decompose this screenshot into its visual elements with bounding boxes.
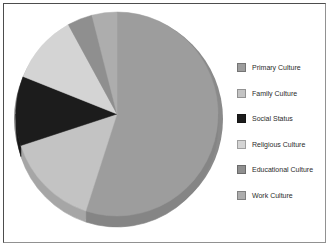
legend-label: Religious Culture	[252, 140, 305, 149]
legend-swatch-religious-culture	[237, 140, 246, 149]
legend-item-religious-culture: Religious Culture	[237, 140, 313, 149]
legend-item-work-culture: Work Culture	[237, 191, 313, 200]
legend-item-primary-culture: Primary Culture	[237, 63, 313, 72]
legend-item-social-status: Social Status	[237, 114, 313, 123]
legend-label: Social Status	[252, 114, 293, 123]
legend-label: Work Culture	[252, 191, 293, 200]
legend-item-family-culture: Family Culture	[237, 89, 313, 98]
chart-panel: Primary Culture Family Culture Social St…	[0, 0, 330, 247]
legend-swatch-family-culture	[237, 89, 246, 98]
legend-swatch-educational-culture	[237, 165, 246, 174]
legend-swatch-primary-culture	[237, 63, 246, 72]
legend-swatch-work-culture	[237, 191, 246, 200]
legend-label: Primary Culture	[252, 63, 301, 72]
legend-label: Educational Culture	[252, 165, 313, 174]
legend: Primary Culture Family Culture Social St…	[237, 63, 313, 200]
legend-label: Family Culture	[252, 89, 297, 98]
legend-item-educational-culture: Educational Culture	[237, 165, 313, 174]
legend-swatch-social-status	[237, 114, 246, 123]
